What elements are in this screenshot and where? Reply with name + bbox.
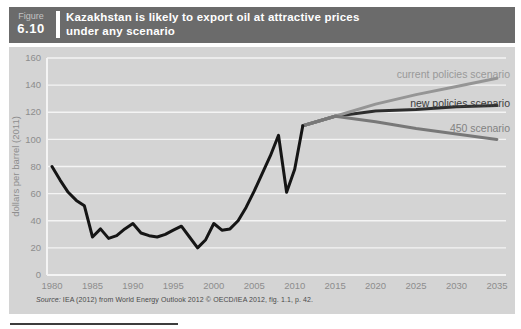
svg-text:1985: 1985 [82,280,103,291]
svg-text:100: 100 [25,134,41,145]
source-prefix: Source: [36,296,61,303]
svg-text:80: 80 [30,161,41,172]
svg-text:2000: 2000 [203,280,224,291]
svg-text:160: 160 [25,52,41,63]
svg-text:1995: 1995 [163,280,184,291]
svg-text:1980: 1980 [41,280,62,291]
source-line: Source: IEA (2012) from World Energy Out… [36,296,313,303]
svg-text:2015: 2015 [325,280,346,291]
bottom-rule [10,323,178,325]
svg-text:1990: 1990 [122,280,143,291]
svg-text:2030: 2030 [446,280,467,291]
legend-450: 450 scenario [450,122,510,134]
svg-text:20: 20 [30,242,41,253]
chart-panel: 0204060801001201401601980198519901995200… [9,47,515,314]
svg-text:2005: 2005 [244,280,265,291]
legend-new-policies: new policies scenario [410,97,510,109]
svg-text:2010: 2010 [284,280,305,291]
svg-text:120: 120 [25,106,41,117]
svg-text:2035: 2035 [486,280,507,291]
figure-number: 6.10 [9,22,53,36]
svg-text:140: 140 [25,79,41,90]
figure-title: Kazakhstan is likely to export oil at at… [66,7,386,38]
svg-text:2020: 2020 [365,280,386,291]
figure-divider [56,11,60,38]
svg-text:2025: 2025 [405,280,426,291]
svg-text:dollars per barrel (2011): dollars per barrel (2011) [10,116,21,217]
svg-text:60: 60 [30,188,41,199]
figure-label-block: Figure 6.10 [9,7,53,36]
svg-text:0: 0 [36,269,41,280]
svg-text:40: 40 [30,215,41,226]
chart-svg: 0204060801001201401601980198519901995200… [9,47,515,314]
legend-current-policies: current policies scenario [397,68,510,80]
figure-header: Figure 6.10 Kazakhstan is likely to expo… [9,7,515,43]
source-text: IEA (2012) from World Energy Outlook 201… [61,296,313,303]
